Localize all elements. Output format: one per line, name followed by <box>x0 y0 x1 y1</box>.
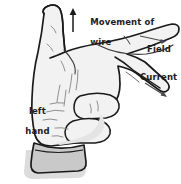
cuff-shape <box>31 143 86 173</box>
label-left-hand: left hand <box>13 96 50 146</box>
label-field: Field <box>147 44 171 54</box>
ring-finger-fold <box>74 93 119 119</box>
label-movement-line1: Movement of <box>90 17 154 27</box>
sleeve-cuff <box>31 143 86 173</box>
flemings-left-hand-rule-figure: Movement of wire Field Current left hand <box>0 0 181 184</box>
label-left-hand-line2: hand <box>25 126 49 136</box>
label-movement-of-wire: Movement of wire <box>78 7 154 57</box>
label-current: Current <box>140 72 177 82</box>
label-movement-line2: wire <box>90 37 111 47</box>
up-arrow-icon <box>70 8 77 32</box>
label-left-hand-line1: left <box>29 106 46 116</box>
